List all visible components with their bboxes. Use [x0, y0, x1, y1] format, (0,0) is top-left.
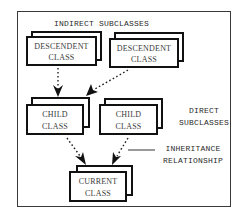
node-label-line2: CLASS [49, 53, 75, 62]
node-label-line1: CHILD [42, 110, 67, 119]
inheritance-arrow-3 [67, 138, 86, 165]
inheritance-arrow-1 [53, 68, 63, 97]
direct-subclasses-label-line2: SUBCLASSES [179, 118, 229, 127]
arrowhead-icon [53, 85, 63, 97]
inheritance-relationship-label-line1: INHERITANCE [165, 144, 220, 153]
node-label-line2: CLASS [116, 122, 142, 131]
inheritance-arrow-2 [86, 70, 128, 96]
node-label-line1: CURRENT [79, 177, 118, 186]
direct-subclasses-label-line1: DIRECT [189, 106, 219, 115]
inheritance-arrow-4 [112, 138, 128, 165]
arrowhead-icon [86, 84, 98, 96]
current-class-node: CURRENT CLASS [70, 166, 132, 201]
node-label-line2: CLASS [42, 122, 68, 131]
node-label-line2: CLASS [85, 189, 111, 198]
node-label-line2: CLASS [131, 55, 157, 64]
inheritance-relationship-label-line2: RELATIONSHIP [163, 156, 223, 165]
descendent-class-node-2: DESCENDENT CLASS [110, 33, 183, 67]
node-label-line1: CHILD [116, 110, 141, 119]
inheritance-diagram: INDIRECT SUBCLASSES DESCENDENT CLASS DES… [0, 0, 245, 220]
child-class-node-1: CHILD CLASS [27, 98, 89, 134]
descendent-class-node-1: DESCENDENT CLASS [27, 32, 101, 65]
child-class-node-2: CHILD CLASS [100, 99, 162, 134]
indirect-subclasses-label: INDIRECT SUBCLASSES [54, 19, 149, 28]
arrowhead-icon [112, 152, 121, 165]
node-label-line1: DESCENDENT [34, 42, 88, 51]
node-label-line1: DESCENDENT [117, 44, 171, 53]
arrowhead-icon [75, 152, 86, 165]
